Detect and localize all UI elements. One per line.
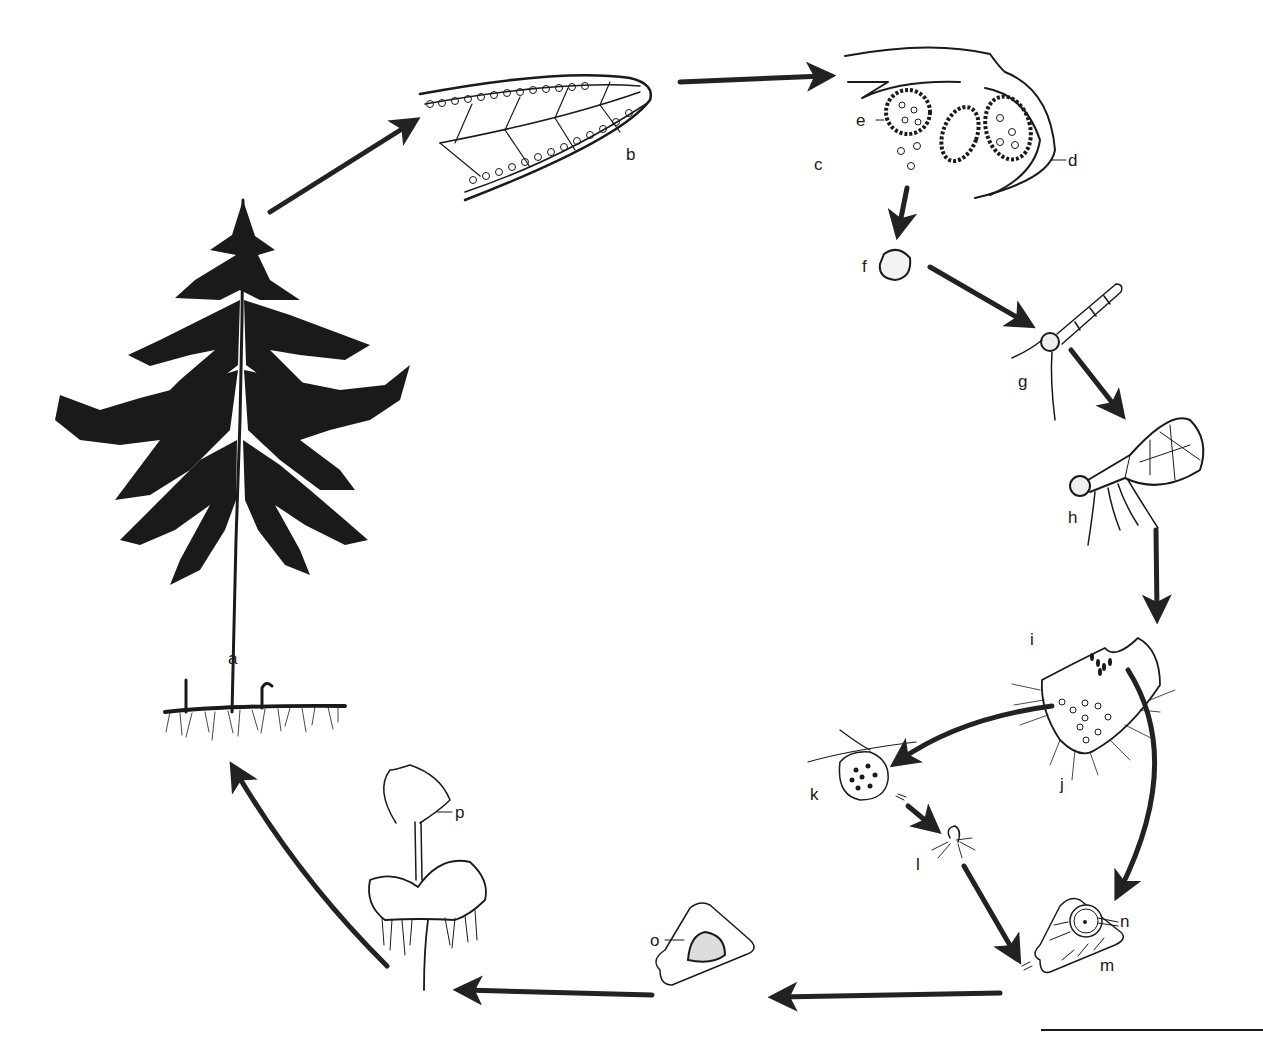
stage-k-antheridium: k <box>808 730 916 804</box>
arrow-c-to-f <box>899 188 907 228</box>
label-k: k <box>810 785 819 804</box>
arrow-b-to-c <box>680 76 824 82</box>
arrow-h-to-i <box>1156 530 1157 612</box>
label-f: f <box>862 257 867 276</box>
arrow-a-to-b <box>270 124 410 212</box>
arrow-f-to-g <box>930 267 1025 322</box>
label-h: h <box>1068 508 1077 527</box>
stage-o-embryo: o <box>650 903 754 985</box>
label-l: l <box>916 855 920 874</box>
label-g: g <box>1018 372 1027 391</box>
label-o: o <box>650 931 659 950</box>
arrow-l-to-m <box>964 866 1015 954</box>
arrow-i-to-n <box>1120 670 1155 890</box>
flow-arrows <box>236 76 1157 997</box>
stage-b-pinnule: b <box>420 75 651 200</box>
arrow-k-to-l <box>908 806 932 826</box>
label-p: p <box>455 803 464 822</box>
stage-a-mature-fern: a <box>55 200 410 740</box>
label-d: d <box>1068 151 1077 170</box>
stage-f-spore: f <box>862 250 910 280</box>
label-n: n <box>1120 912 1129 931</box>
fern-frond-icon <box>55 200 410 585</box>
stage-i-mature-prothallus: i j <box>1012 630 1175 794</box>
stage-h-young-prothallus: h <box>1068 418 1203 545</box>
label-b: b <box>626 145 635 164</box>
arrow-j-to-k <box>900 706 1052 760</box>
label-a: a <box>228 649 238 668</box>
label-e: e <box>856 111 865 130</box>
stage-m-archegonium: n m <box>1022 898 1129 975</box>
fern-life-cycle-diagram: a b c <box>0 0 1263 1053</box>
stage-g-germinating-spore: g <box>1012 284 1122 420</box>
arrow-p-to-a <box>236 772 387 966</box>
stage-c-sorus-section: c d e <box>814 47 1077 198</box>
diagram-canvas: a b c <box>0 0 1263 1053</box>
label-c: c <box>814 155 823 174</box>
antheridia <box>1059 699 1111 743</box>
arrow-o-to-p <box>465 990 652 995</box>
sori-row <box>427 83 633 184</box>
label-j: j <box>1059 775 1064 794</box>
arrow-g-to-h <box>1071 350 1118 410</box>
arrow-m-to-o <box>780 993 1000 997</box>
label-m: m <box>1100 956 1114 975</box>
stage-p-young-sporophyte: p <box>369 765 486 990</box>
label-i: i <box>1030 630 1034 649</box>
